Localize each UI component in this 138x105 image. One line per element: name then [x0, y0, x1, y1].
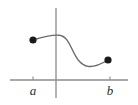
figure-background	[0, 0, 138, 105]
function-graph-figure: a b	[0, 0, 138, 105]
right-endpoint-dot	[104, 56, 111, 63]
x-tick-label-a: a	[30, 83, 37, 98]
left-endpoint-dot	[29, 36, 36, 43]
graph-canvas: a b	[0, 0, 138, 105]
x-tick-label-b: b	[107, 83, 114, 98]
